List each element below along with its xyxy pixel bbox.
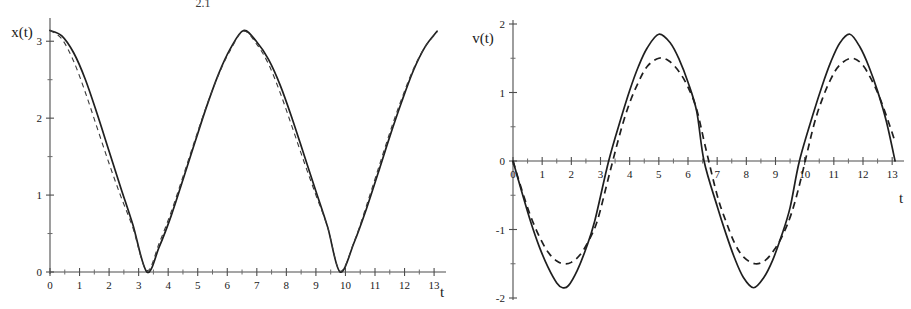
y-tick-label: 2 <box>500 18 506 30</box>
y-tick-label: -1 <box>496 224 505 236</box>
position-curves <box>50 30 437 272</box>
x-tick-label: 7 <box>254 279 260 291</box>
x-tick-label: 4 <box>165 279 171 291</box>
x-tick-label: 5 <box>656 168 662 180</box>
x-tick-label: 11 <box>829 168 840 180</box>
x-tick-label: 9 <box>773 168 779 180</box>
y-tick-label: 1 <box>500 87 506 99</box>
x-tick-label: 12 <box>858 168 869 180</box>
y-axis-name: x(t) <box>11 24 33 41</box>
y-tick-label: 0 <box>37 266 43 278</box>
y-axis-name: v(t) <box>472 30 494 47</box>
x-tick-label: 11 <box>370 279 381 291</box>
y-tick-label: 2 <box>37 112 43 124</box>
x-axis-name: t <box>440 284 445 300</box>
x-tick-label: 4 <box>627 168 633 180</box>
y-tick-label: 0 <box>500 155 506 167</box>
x-tick-label: 3 <box>598 168 604 180</box>
chart-panel-velocity: 012345678910111213-2-1012v(t)t <box>455 0 911 309</box>
position-plot-svg: 0123456789101112130123x(t)t <box>0 0 455 309</box>
x-tick-label: 8 <box>744 168 750 180</box>
y-tick-label: 3 <box>37 35 43 47</box>
y-tick-label: 1 <box>37 189 43 201</box>
chart-panel-position: 0123456789101112130123x(t)t <box>0 0 455 309</box>
x-tick-label: 2 <box>106 279 112 291</box>
x-tick-label: 7 <box>714 168 720 180</box>
velocity-plot-svg: 012345678910111213-2-1012v(t)t <box>455 0 911 309</box>
x-tick-label: 10 <box>340 279 352 291</box>
x-tick-label: 5 <box>195 279 201 291</box>
x-axis-name: t <box>899 190 904 206</box>
x-tick-label: 6 <box>225 279 231 291</box>
x-tick-label: 13 <box>887 168 899 180</box>
y-tick-label: -2 <box>496 292 505 304</box>
x-tick-label: 12 <box>399 279 410 291</box>
x-tick-label: 13 <box>429 279 441 291</box>
x-tick-label: 0 <box>47 279 53 291</box>
x-tick-label: 6 <box>685 168 691 180</box>
figure-root: 2.1 0123456789101112130123x(t)t 01234567… <box>0 0 911 309</box>
series-exact <box>50 30 437 272</box>
x-tick-label: 8 <box>284 279 290 291</box>
x-tick-label: 2 <box>569 168 575 180</box>
series-approximation <box>50 30 437 271</box>
x-tick-label: 9 <box>313 279 319 291</box>
x-tick-label: 3 <box>136 279 142 291</box>
x-tick-label: 1 <box>77 279 83 291</box>
x-tick-label: 0 <box>510 168 516 180</box>
velocity-axes <box>509 20 904 300</box>
x-tick-label: 1 <box>539 168 545 180</box>
x-tick-label: 10 <box>799 168 811 180</box>
